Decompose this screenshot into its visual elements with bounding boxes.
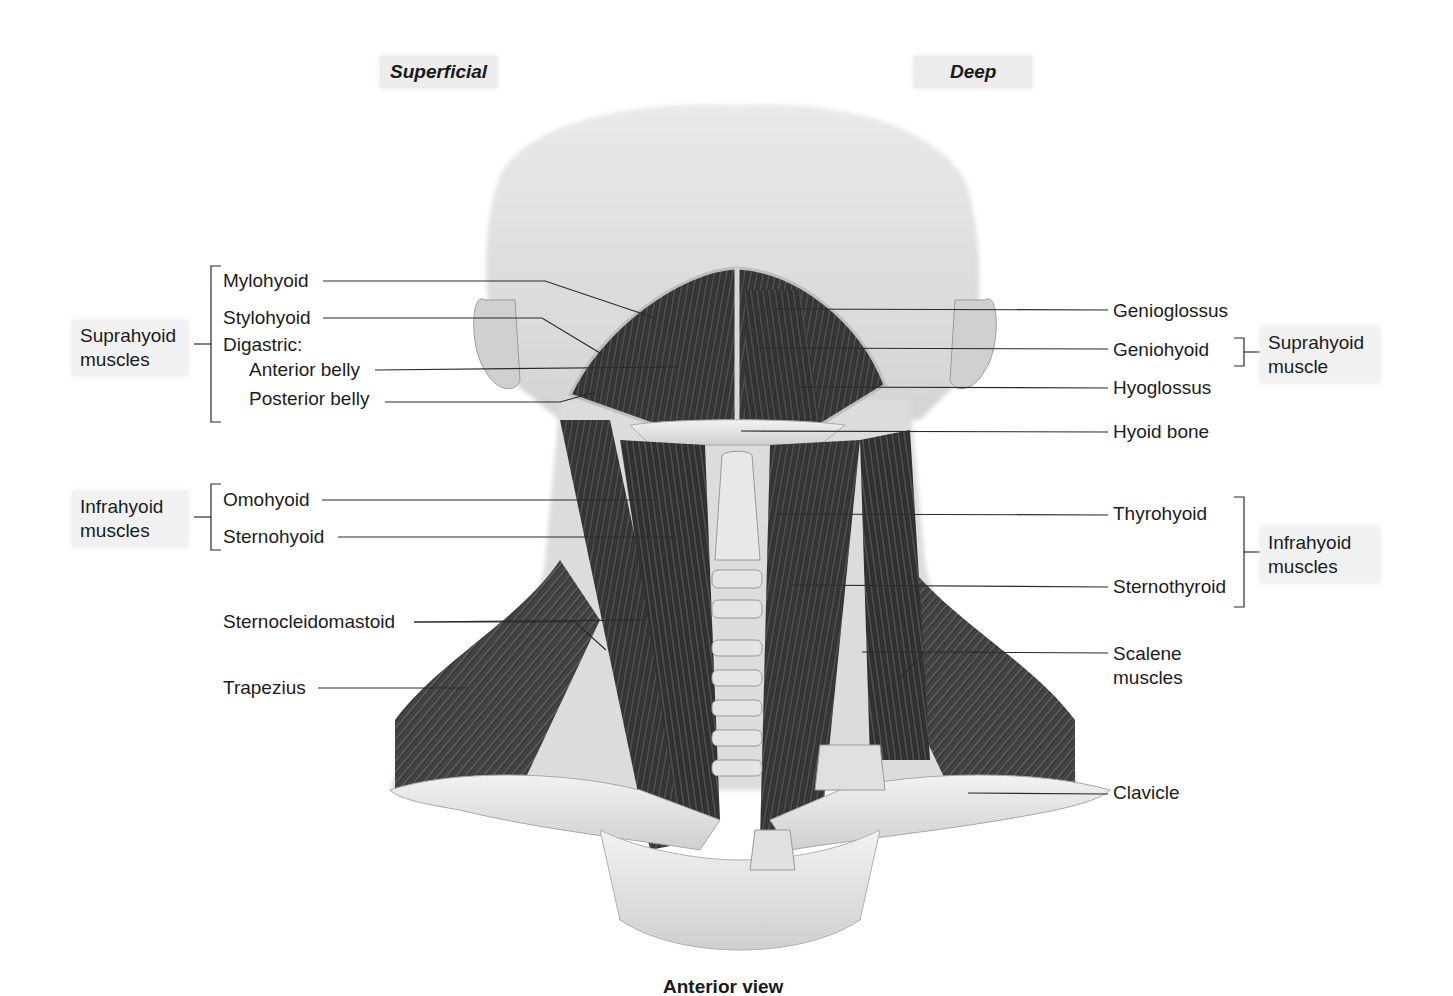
label-stylohyoid: Stylohyoid xyxy=(223,307,311,329)
cut-scm-right xyxy=(815,745,885,790)
label-sternohyoid: Sternohyoid xyxy=(223,526,324,548)
label-mylohyoid: Mylohyoid xyxy=(223,270,309,292)
label-hyoglossus: Hyoglossus xyxy=(1113,377,1211,399)
label-posterior-belly: Posterior belly xyxy=(249,388,369,410)
group-suprahyoid-right: Suprahyoid muscle xyxy=(1260,327,1380,383)
group-suprahyoid-right-text: Suprahyoid muscle xyxy=(1268,331,1372,379)
group-infrahyoid-right-text: Infrahyoid muscles xyxy=(1268,531,1372,579)
label-sternothyroid: Sternothyroid xyxy=(1113,576,1226,598)
heading-deep: Deep xyxy=(914,56,1032,88)
label-anterior-belly: Anterior belly xyxy=(249,359,360,381)
figure-caption: Anterior view xyxy=(663,976,783,996)
label-thyrohyoid: Thyrohyoid xyxy=(1113,503,1207,525)
label-digastric: Digastric: xyxy=(223,334,302,356)
cut-sternothyroid xyxy=(750,830,795,870)
label-geniohyoid: Geniohyoid xyxy=(1113,339,1209,361)
label-genioglossus: Genioglossus xyxy=(1113,300,1228,322)
group-infrahyoid-left: Infrahyoid muscles xyxy=(72,491,188,547)
label-clavicle: Clavicle xyxy=(1113,782,1180,804)
left-ear xyxy=(474,299,520,389)
scalene-right xyxy=(860,430,930,760)
group-suprahyoid-left: Suprahyoid muscles xyxy=(72,320,188,376)
label-scalene-muscles: Scalene muscles xyxy=(1113,642,1193,690)
hyoid-bone-shape xyxy=(630,420,845,445)
label-sternocleidomastoid: Sternocleidomastoid xyxy=(223,611,395,633)
neck-anatomy-illustration xyxy=(0,0,1453,996)
group-infrahyoid-right: Infrahyoid muscles xyxy=(1260,527,1380,583)
tracheal-rings xyxy=(712,570,762,776)
group-infrahyoid-left-text: Infrahyoid muscles xyxy=(80,495,180,543)
heading-superficial: Superficial xyxy=(380,56,497,88)
neck-muscles-figure: Superficial Deep Suprahyoid muscles Infr… xyxy=(0,0,1453,996)
group-suprahyoid-left-text: Suprahyoid muscles xyxy=(80,324,180,372)
manubrium xyxy=(600,830,880,950)
label-trapezius: Trapezius xyxy=(223,677,306,699)
thyroid-cartilage xyxy=(715,451,760,560)
label-omohyoid: Omohyoid xyxy=(223,489,310,511)
right-ear xyxy=(950,299,996,389)
label-hyoid-bone: Hyoid bone xyxy=(1113,421,1209,443)
